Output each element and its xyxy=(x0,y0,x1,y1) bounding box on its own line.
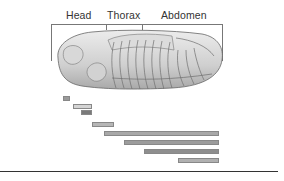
expression-bar-8 xyxy=(178,158,219,163)
expression-bar-4 xyxy=(92,122,114,127)
baseline-rule xyxy=(0,171,278,172)
embryo-illustration xyxy=(52,28,224,90)
segment-label-thorax: Thorax xyxy=(107,9,140,21)
expression-bar-2 xyxy=(73,104,92,109)
expression-bar-7 xyxy=(144,149,219,154)
expression-bar-6 xyxy=(124,140,219,145)
expression-bar-3 xyxy=(81,110,92,115)
segment-label-abdomen: Abdomen xyxy=(161,9,207,21)
segment-label-head: Head xyxy=(66,9,92,21)
expression-bar-5 xyxy=(104,131,219,136)
expression-bar-1 xyxy=(63,96,70,101)
